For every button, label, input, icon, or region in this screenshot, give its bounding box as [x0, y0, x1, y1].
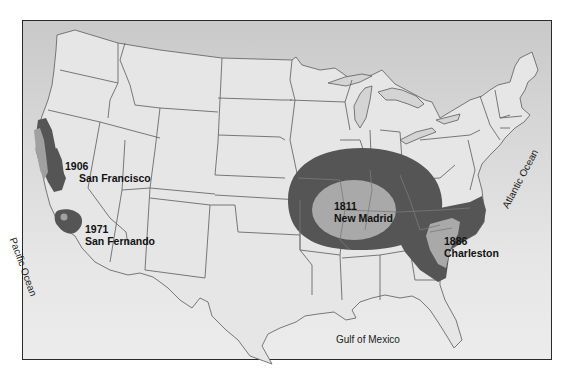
san-fernando-inner-zone: [61, 214, 68, 221]
new-madrid-name: New Madrid: [334, 212, 393, 224]
us-landmass: [36, 30, 538, 364]
san-fernando-label: 1971 San Fernando: [85, 223, 155, 247]
san-fernando-name: San Fernando: [85, 235, 155, 247]
us-map: [0, 0, 576, 374]
gulf-of-mexico-label: Gulf of Mexico: [336, 334, 400, 345]
new-madrid-year: 1811: [334, 200, 393, 212]
charleston-year: 1886: [444, 235, 499, 247]
new-madrid-label: 1811 New Madrid: [334, 200, 393, 224]
charleston-label: 1886 Charleston: [444, 235, 499, 259]
san-francisco-label: 1906 San Francisco: [65, 160, 151, 184]
charleston-name: Charleston: [444, 247, 499, 259]
san-francisco-year: 1906: [65, 160, 151, 172]
san-francisco-name: San Francisco: [65, 172, 151, 184]
san-fernando-year: 1971: [85, 223, 155, 235]
